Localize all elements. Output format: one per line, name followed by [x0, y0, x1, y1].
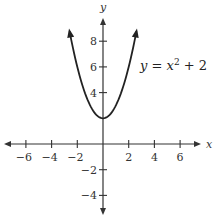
- x-axis: x: [4, 138, 213, 151]
- x-tick-label: −6: [16, 151, 32, 164]
- y-tick-label: −4: [81, 189, 97, 202]
- y-tick-label: −2: [81, 164, 97, 177]
- equation-rest: + 2: [180, 58, 207, 73]
- curve-left-arrow-icon: [67, 28, 74, 37]
- graph-plot: x y −6−4−2246 864−2−4 y = x2 + 2: [0, 0, 215, 220]
- y-axis: y: [99, 1, 107, 215]
- x-tick-label: 2: [125, 151, 132, 164]
- y-axis-up-arrow-icon: [100, 18, 106, 25]
- y-tick-label: 4: [90, 87, 97, 100]
- y-axis-down-arrow-icon: [100, 208, 106, 215]
- x-tick-label: −2: [67, 151, 83, 164]
- equation-equals: =: [147, 58, 166, 73]
- x-tick-label: −4: [41, 151, 57, 164]
- curve-right-arrow-icon: [132, 28, 139, 37]
- equation-label: y = x2 + 2: [139, 57, 207, 73]
- x-axis-left-arrow-icon: [4, 141, 11, 147]
- x-axis-label: x: [206, 138, 213, 151]
- y-tick-label: 6: [90, 61, 97, 74]
- x-tick-label: 6: [177, 151, 184, 164]
- y-tick-label: 8: [90, 35, 97, 48]
- x-tick-label: 4: [151, 151, 158, 164]
- x-axis-right-arrow-icon: [194, 141, 201, 147]
- y-axis-label: y: [99, 1, 107, 14]
